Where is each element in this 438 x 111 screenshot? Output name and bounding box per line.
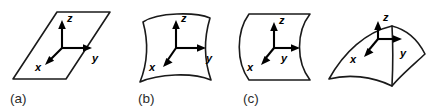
panel-b-x-axis-line xyxy=(167,48,176,61)
panel-c-x-axis-line xyxy=(265,48,274,59)
panel-d-y-axis-label: y xyxy=(399,47,407,59)
panel-c-y-axis-label: y xyxy=(280,52,288,64)
panel-c: z y x (c) xyxy=(239,14,310,106)
panel-d-x-axis-line xyxy=(368,39,378,51)
panel-b-axes xyxy=(163,20,206,67)
panel-c-x-axis-arrowhead xyxy=(261,56,270,65)
panel-c-y-axis-arrowhead xyxy=(291,44,300,52)
panel-b: z y x (b) xyxy=(138,12,213,106)
panel-c-label: (c) xyxy=(243,91,259,106)
panel-c-z-axis-arrowhead xyxy=(270,22,278,31)
panel-b-y-axis-arrowhead xyxy=(197,44,206,52)
panel-b-z-axis-label: z xyxy=(180,12,187,24)
panel-b-x-axis-arrowhead xyxy=(163,58,173,67)
panel-b-y-axis-label: y xyxy=(205,52,213,64)
panel-d-x-axis-label: x xyxy=(349,53,357,65)
panel-d-axes xyxy=(364,21,402,57)
panel-d-surface-crease xyxy=(392,26,393,86)
panel-d-y-axis-arrowhead xyxy=(393,35,402,43)
panel-a-y-axis-label: y xyxy=(91,52,99,64)
panel-a-z-axis-arrowhead xyxy=(58,20,66,29)
panel-a-x-axis-label: x xyxy=(34,61,42,73)
panel-c-x-axis-label: x xyxy=(246,61,254,73)
panel-d-x-axis-arrowhead xyxy=(364,48,374,57)
panel-b-x-axis-label: x xyxy=(148,61,156,73)
panel-b-z-axis-arrowhead xyxy=(172,20,180,29)
panel-d-z-axis-label: z xyxy=(382,11,389,23)
panel-a-axes xyxy=(45,20,92,65)
panel-c-z-axis-label: z xyxy=(278,14,285,26)
panel-a-z-axis-label: z xyxy=(66,12,73,24)
panel-a-label: (a) xyxy=(10,91,27,106)
panel-d: z y x xyxy=(329,11,425,86)
surface-curvature-diagram: z y x (a) z y x (b) z y x xyxy=(0,0,438,111)
panel-b-label: (b) xyxy=(138,91,155,106)
panel-a: z y x (a) xyxy=(10,12,110,106)
panel-d-z-axis-arrowhead xyxy=(374,21,382,30)
